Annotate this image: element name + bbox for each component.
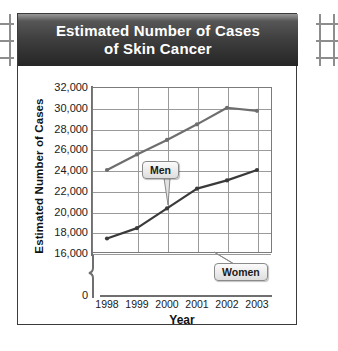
left-ruler-decoration xyxy=(0,14,14,66)
y-tick-label: 24,000 xyxy=(32,164,88,176)
ruler-horizontal-bar xyxy=(0,40,14,42)
series-label-men: Men xyxy=(142,161,179,179)
data-point-women xyxy=(165,206,169,210)
y-tick-label: 20,000 xyxy=(32,206,88,218)
series-line-men xyxy=(107,108,257,170)
y-tick-label: 26,000 xyxy=(32,143,88,155)
ruler-horizontal-bar xyxy=(316,40,338,42)
data-point-men xyxy=(225,106,229,110)
data-point-women xyxy=(225,178,229,182)
y-tick-label: 30,000 xyxy=(32,102,88,114)
data-point-men xyxy=(105,168,109,172)
y-tick-label: 16,000 xyxy=(32,247,88,259)
y-tick-zero: 0 xyxy=(26,289,88,301)
data-point-women xyxy=(135,226,139,230)
gridline-horizontal xyxy=(93,254,271,255)
data-point-men xyxy=(195,122,199,126)
chart-card: Estimated Number of Cases of Skin Cancer… xyxy=(17,13,297,325)
chart-title-line1: Estimated Number of Cases xyxy=(56,22,260,39)
ruler-horizontal-bar xyxy=(316,57,338,59)
data-series-layer xyxy=(92,87,272,253)
ruler-horizontal-bar xyxy=(316,23,338,25)
data-point-women xyxy=(195,187,199,191)
chart-title: Estimated Number of Cases of Skin Cancer xyxy=(56,22,260,58)
data-point-women xyxy=(105,236,109,240)
title-banner: Estimated Number of Cases of Skin Cancer xyxy=(18,14,298,66)
y-axis-break-icon xyxy=(88,254,102,298)
data-point-men xyxy=(135,152,139,156)
ruler-horizontal-bar xyxy=(0,57,14,59)
banner-gloss xyxy=(18,14,298,21)
data-point-men xyxy=(165,138,169,142)
x-axis-line xyxy=(100,295,272,297)
y-tick-labels: 32,00030,00028,00026,00024,00022,00020,0… xyxy=(26,87,88,253)
data-point-women xyxy=(255,168,259,172)
x-axis-label: Year xyxy=(92,313,272,327)
y-tick-label: 18,000 xyxy=(32,226,88,238)
y-tick-label: 28,000 xyxy=(32,123,88,135)
chart-body: Estimated Number of Cases 32,00030,00028… xyxy=(18,66,298,326)
right-ruler-decoration xyxy=(316,14,338,66)
data-point-men xyxy=(255,109,259,113)
y-tick-label: 32,000 xyxy=(32,81,88,93)
chart-title-line2: of Skin Cancer xyxy=(104,40,212,57)
series-label-women: Women xyxy=(214,263,268,281)
ruler-horizontal-bar xyxy=(0,23,14,25)
series-line-women xyxy=(107,170,257,238)
x-tick-label: 2003 xyxy=(237,298,277,310)
y-tick-label: 22,000 xyxy=(32,185,88,197)
